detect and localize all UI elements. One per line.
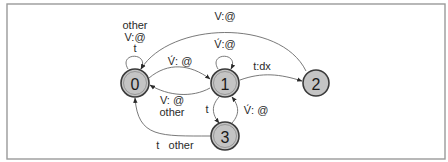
state-node-2[interactable]: 2 [303, 70, 329, 96]
state-node-3[interactable]: 3 [211, 122, 239, 150]
edge-label-1-2: t:dx [253, 60, 271, 72]
edge-label-3-1: V́: @ [244, 104, 269, 116]
state-node-2-label: 2 [312, 76, 321, 93]
state-node-0[interactable]: 0 [121, 69, 149, 97]
edge-label-0-1: V́: @ [168, 55, 193, 67]
edge-label-3-0: t other [156, 139, 194, 151]
edge-label-1-0: V: @other [159, 94, 184, 118]
state-node-1[interactable]: 1 [211, 69, 239, 97]
state-node-3-label: 3 [221, 129, 230, 146]
edge-label-1-3: t [205, 103, 208, 115]
state-node-1-label: 1 [221, 76, 230, 93]
state-diagram: otherV:@t V́: @ V: @other V́:@ t:dx V:@ … [0, 0, 448, 162]
edge-label-1-1: V́:@ [214, 38, 236, 50]
edge-label-2-0: V:@ [214, 10, 235, 22]
state-node-0-label: 0 [131, 76, 140, 93]
